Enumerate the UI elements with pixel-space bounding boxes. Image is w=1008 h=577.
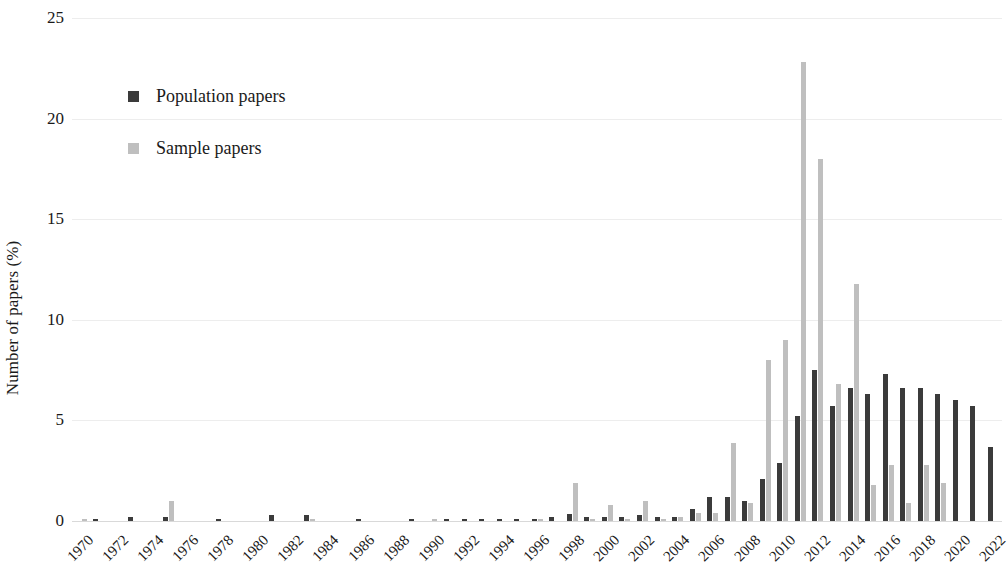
bar-group bbox=[651, 18, 669, 521]
legend-item[interactable]: Sample papers bbox=[128, 136, 388, 160]
bar-population bbox=[707, 497, 712, 521]
bar-group bbox=[704, 18, 722, 521]
bar-group bbox=[72, 18, 90, 521]
bar-population bbox=[900, 388, 905, 521]
bar-sample bbox=[748, 503, 753, 521]
bar-population bbox=[865, 394, 870, 521]
bar-group bbox=[546, 18, 564, 521]
bar-group bbox=[90, 18, 108, 521]
bar-sample bbox=[941, 483, 946, 521]
x-axis-tick-label: 2004 bbox=[650, 532, 693, 575]
bar-group bbox=[897, 18, 915, 521]
x-axis-tick-labels: 1970197219741976197819801982198419861988… bbox=[72, 521, 1002, 577]
bar-population bbox=[760, 479, 765, 521]
bar-sample bbox=[854, 284, 859, 521]
x-axis-tick-label: 1990 bbox=[405, 532, 448, 575]
bar-population bbox=[690, 509, 695, 521]
bar-population bbox=[742, 501, 747, 521]
bar-group bbox=[932, 18, 950, 521]
bar-sample bbox=[766, 360, 771, 521]
y-axis-tick-label: 15 bbox=[20, 209, 64, 229]
y-axis-tick-label: 0 bbox=[20, 511, 64, 531]
bar-sample bbox=[573, 483, 578, 521]
bar-group bbox=[388, 18, 406, 521]
x-axis-tick-label: 2010 bbox=[756, 532, 799, 575]
x-axis-tick-label: 1972 bbox=[89, 532, 132, 575]
bar-group bbox=[669, 18, 687, 521]
bar-group bbox=[721, 18, 739, 521]
x-axis-tick-label: 1976 bbox=[159, 532, 202, 575]
bar-sample bbox=[783, 340, 788, 521]
bar-population bbox=[812, 370, 817, 521]
x-axis-tick-label: 1994 bbox=[475, 532, 518, 575]
x-axis-tick-label: 1998 bbox=[545, 532, 588, 575]
x-axis-tick-label: 2018 bbox=[896, 532, 939, 575]
bar-sample bbox=[801, 62, 806, 521]
bar-population bbox=[935, 394, 940, 521]
bar-sample bbox=[906, 503, 911, 521]
bar-group bbox=[827, 18, 845, 521]
bar-group bbox=[563, 18, 581, 521]
bar-group bbox=[598, 18, 616, 521]
bar-group bbox=[809, 18, 827, 521]
x-axis-tick-label: 2000 bbox=[580, 532, 623, 575]
x-axis-tick-label: 1996 bbox=[510, 532, 553, 575]
bar-sample bbox=[818, 159, 823, 521]
bar-group bbox=[774, 18, 792, 521]
bar-population bbox=[777, 463, 782, 521]
bar-sample bbox=[643, 501, 648, 521]
bar-group bbox=[493, 18, 511, 521]
bar-sample bbox=[731, 443, 736, 521]
x-axis-tick-label: 2002 bbox=[615, 532, 658, 575]
bar-sample bbox=[696, 513, 701, 521]
bar-group bbox=[476, 18, 494, 521]
bar-population bbox=[567, 514, 572, 521]
x-axis-tick-label: 1974 bbox=[124, 532, 167, 575]
bar-group bbox=[686, 18, 704, 521]
bar-group bbox=[528, 18, 546, 521]
x-axis-tick-label: 2006 bbox=[686, 532, 729, 575]
y-axis-tick-labels: 0510152025 bbox=[0, 0, 64, 577]
bar-population bbox=[953, 400, 958, 521]
bar-sample bbox=[871, 485, 876, 521]
bar-population bbox=[883, 374, 888, 521]
bar-group bbox=[423, 18, 441, 521]
y-axis-tick-label: 10 bbox=[20, 310, 64, 330]
bar-group bbox=[107, 18, 125, 521]
x-axis-tick-label: 2012 bbox=[791, 532, 834, 575]
bar-sample bbox=[836, 384, 841, 521]
bar-population bbox=[988, 447, 993, 521]
bar-group bbox=[914, 18, 932, 521]
bar-group bbox=[967, 18, 985, 521]
bar-group bbox=[844, 18, 862, 521]
bar-group bbox=[862, 18, 880, 521]
bar-population bbox=[725, 497, 730, 521]
x-axis-tick-label: 1982 bbox=[264, 532, 307, 575]
legend-item-label: Sample papers bbox=[156, 138, 261, 159]
bar-population bbox=[918, 388, 923, 521]
legend-item[interactable]: Population papers bbox=[128, 84, 388, 108]
x-axis-tick-label: 2016 bbox=[861, 532, 904, 575]
y-axis-tick-label: 25 bbox=[20, 8, 64, 28]
bar-group bbox=[405, 18, 423, 521]
x-axis-tick-label: 2008 bbox=[721, 532, 764, 575]
bar-group bbox=[756, 18, 774, 521]
bar-group bbox=[581, 18, 599, 521]
bar-population bbox=[830, 406, 835, 521]
x-axis-tick-label: 1978 bbox=[194, 532, 237, 575]
bar-group bbox=[791, 18, 809, 521]
square-marker bbox=[128, 91, 139, 102]
bar-sample bbox=[169, 501, 174, 521]
bar-group bbox=[616, 18, 634, 521]
bar-sample bbox=[889, 465, 894, 521]
square-marker bbox=[128, 143, 139, 154]
x-axis-tick-label: 1988 bbox=[370, 532, 413, 575]
x-axis-tick-label: 2014 bbox=[826, 532, 869, 575]
y-axis-tick-label: 20 bbox=[20, 109, 64, 129]
x-axis-tick-label: 1984 bbox=[299, 532, 342, 575]
x-axis-tick-label: 1992 bbox=[440, 532, 483, 575]
bar-sample bbox=[713, 513, 718, 521]
bar-sample bbox=[608, 505, 613, 521]
bar-group bbox=[879, 18, 897, 521]
bar-population bbox=[795, 416, 800, 521]
